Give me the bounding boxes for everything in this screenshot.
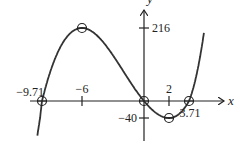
- cubic-graph: −6 2 216 −40 −9.71 3.71 x y: [0, 0, 239, 141]
- y-axis-label: y: [145, 0, 153, 6]
- y-tick-label-neg40: −40: [118, 111, 137, 125]
- x-tick-label-neg6: −6: [76, 82, 89, 96]
- x-tick-label-2: 2: [166, 82, 172, 96]
- x-axis-label: x: [227, 93, 234, 108]
- y-tick-label-216: 216: [152, 21, 170, 35]
- intercept-label-3-71: 3.71: [180, 106, 201, 120]
